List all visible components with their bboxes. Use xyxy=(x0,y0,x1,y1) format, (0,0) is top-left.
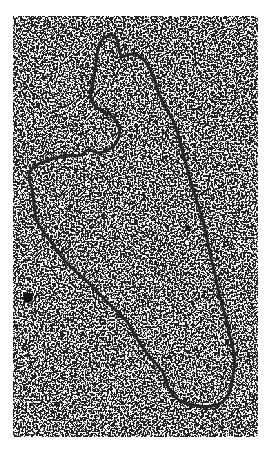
electron-micrograph xyxy=(13,16,258,437)
particle xyxy=(101,214,105,218)
particle xyxy=(229,164,233,168)
particle xyxy=(23,293,33,303)
stain-grain xyxy=(13,16,258,437)
particle xyxy=(186,226,191,231)
